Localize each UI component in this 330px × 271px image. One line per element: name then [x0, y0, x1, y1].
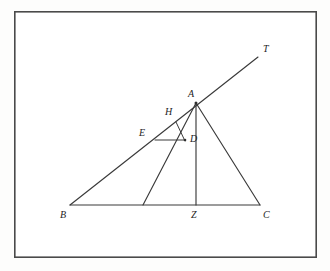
vertex-dot-D: [184, 139, 187, 142]
point-label-H: H: [165, 107, 172, 117]
geometry-svg: [0, 0, 330, 271]
point-label-D: D: [190, 134, 197, 144]
point-label-A: A: [188, 89, 194, 99]
point-label-E: E: [139, 128, 145, 138]
point-label-B: B: [60, 210, 66, 220]
point-label-Z: Z: [191, 210, 197, 220]
point-label-C: C: [263, 210, 270, 220]
figure-frame-border: [15, 12, 316, 257]
geometry-figure-canvas: A B C T D E H Z: [0, 0, 330, 271]
point-label-T: T: [263, 44, 269, 54]
vertex-dot-A: [195, 102, 198, 105]
